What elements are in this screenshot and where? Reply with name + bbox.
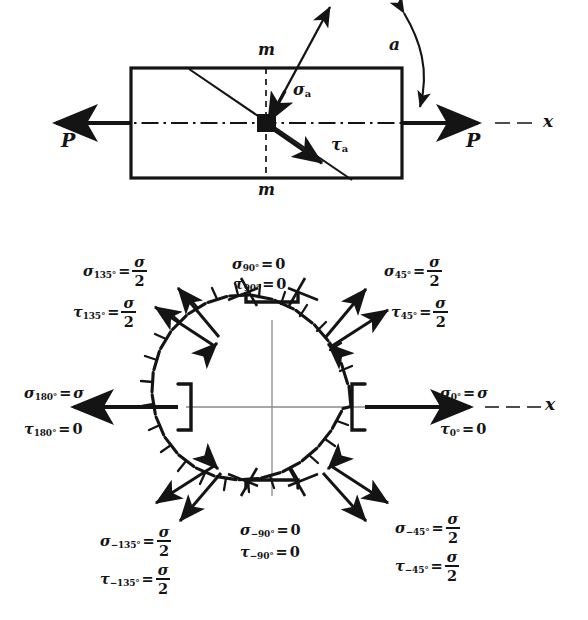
tau-glyph: τ (100, 570, 110, 587)
equals: = (140, 532, 156, 549)
label-tau-90: τ90°=0 (234, 277, 286, 293)
equals: = (429, 519, 445, 536)
sigma-sub: 180° (35, 392, 57, 402)
equals: = (56, 420, 72, 437)
arrow-135-a (155, 307, 213, 345)
arrow-45-a (332, 310, 388, 346)
tau-sub: 180° (34, 428, 56, 438)
sigma-sub: −135° (111, 540, 141, 550)
equals: = (116, 262, 132, 279)
tau-glyph: τ (24, 420, 34, 437)
fraction-numerator: σ (445, 549, 460, 564)
sigma-sub: −90° (251, 529, 275, 539)
fraction: σ2 (427, 254, 442, 288)
sigma-a-arrow (268, 7, 330, 122)
fraction-numerator: σ (121, 295, 136, 310)
sigma-glyph: σ (440, 384, 451, 401)
fraction-denominator: 2 (132, 273, 147, 288)
value: 0 (476, 420, 486, 437)
tau-sub: −90° (250, 551, 274, 561)
value: 0 (275, 255, 285, 272)
tau-sub: 0° (450, 428, 460, 438)
equals: = (259, 255, 275, 272)
label-sigma-minus-45: σ−45°=σ2 (395, 512, 460, 546)
fraction-denominator: 2 (445, 568, 460, 583)
value: 0 (276, 275, 286, 292)
sigma-glyph: σ (100, 532, 111, 549)
tau-glyph: τ (234, 275, 244, 292)
tau-a-sub: a (342, 143, 348, 154)
angle-label-a: a (389, 36, 400, 53)
fraction: σ2 (446, 511, 461, 545)
fraction-denominator: 2 (433, 314, 448, 329)
tau-glyph: τ (73, 303, 83, 320)
equals: = (274, 521, 290, 538)
equals: = (140, 570, 156, 587)
equals: = (105, 303, 121, 320)
label-sigma-0: σ0°=σ (440, 386, 488, 402)
label-tau-180: τ180°=0 (24, 422, 82, 438)
arrow-m45-a (331, 466, 388, 503)
tau-glyph: τ (440, 420, 450, 437)
sigma-a-sub: a (305, 88, 311, 99)
sigma-sub: 135° (94, 270, 116, 280)
fraction-numerator: σ (446, 511, 461, 526)
label-sigma-45: σ45°=σ2 (384, 255, 442, 289)
fraction: σ2 (156, 562, 171, 596)
label-tau-minus-90: τ−90°=0 (240, 545, 300, 561)
label-sigma-135: σ135°=σ2 (83, 255, 147, 289)
tau-sub: −135° (110, 578, 140, 588)
facet-ticks (141, 283, 352, 492)
sigma-sub: −45° (406, 527, 430, 537)
label-sigma-90: σ90°=0 (232, 257, 285, 273)
fraction-denominator: 2 (157, 543, 172, 558)
tau-sub: −45° (405, 565, 429, 575)
value: σ (477, 384, 488, 401)
equals: = (274, 543, 290, 560)
tau-glyph: τ (395, 557, 405, 574)
sigma-glyph: σ (24, 384, 35, 401)
fraction: σ2 (433, 295, 448, 329)
label-tau-135: τ135°=σ2 (73, 296, 136, 330)
load-label-right: P (466, 131, 480, 150)
section-label-bottom: m (258, 182, 275, 198)
tau-a-arrow (270, 127, 322, 163)
value: 0 (72, 420, 82, 437)
bar-x-axis-label: x (543, 113, 553, 130)
arrow-m135-a (156, 466, 214, 503)
equals: = (461, 384, 477, 401)
equals: = (417, 303, 433, 320)
value: 0 (290, 543, 300, 560)
load-label-left: P (61, 131, 75, 150)
tau-sub: 45° (401, 311, 417, 321)
tau-glyph: τ (331, 135, 342, 154)
circle-x-axis-label: x (545, 396, 555, 413)
sigma-glyph: σ (293, 80, 305, 99)
sigma-glyph: σ (384, 262, 395, 279)
label-tau-0: τ0°=0 (440, 422, 486, 438)
equals: = (429, 557, 445, 574)
arrow-m45-b (323, 473, 366, 521)
fraction: σ2 (132, 254, 147, 288)
fraction-numerator: σ (433, 295, 448, 310)
fraction-denominator: 2 (427, 273, 442, 288)
fraction: σ2 (157, 524, 172, 558)
sigma-glyph: σ (83, 262, 94, 279)
value: 0 (291, 521, 301, 538)
label-tau-45: τ45°=σ2 (391, 296, 448, 330)
label-sigma-minus-135: σ−135°=σ2 (100, 525, 171, 559)
equals: = (411, 262, 427, 279)
fraction-numerator: σ (427, 254, 442, 269)
faceted-circle (152, 295, 351, 480)
sigma-sub: 90° (243, 263, 259, 273)
tau-sub: 135° (83, 311, 105, 321)
sigma-glyph: σ (395, 519, 406, 536)
section-label-top: m (258, 42, 275, 58)
fraction: σ2 (445, 549, 460, 583)
label-tau-minus-135: τ−135°=σ2 (100, 563, 170, 597)
sigma-sub: 45° (395, 270, 411, 280)
fraction-denominator: 2 (156, 581, 171, 596)
label-sigma-minus-90: σ−90°=0 (240, 523, 301, 539)
tau-glyph: τ (391, 303, 401, 320)
tau-a-label: τa (331, 137, 348, 154)
